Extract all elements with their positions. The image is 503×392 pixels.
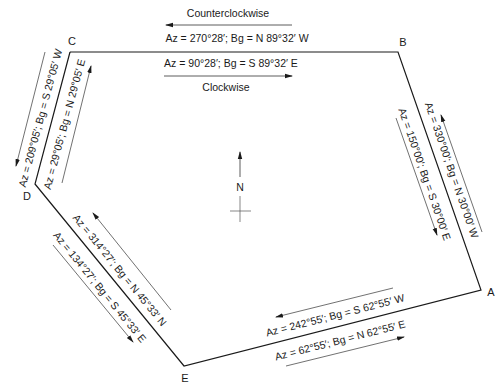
cb-cw-label: Az = 90°28′; Bg = S 89°32′ E bbox=[164, 57, 298, 69]
vertex-label-b: B bbox=[399, 37, 406, 48]
vertex-label-e: E bbox=[181, 373, 188, 384]
north-label: N bbox=[236, 182, 244, 193]
traverse-polygon bbox=[35, 52, 481, 366]
clockwise-label: Clockwise bbox=[202, 81, 249, 93]
counterclockwise-label: Counterclockwise bbox=[187, 7, 269, 19]
cb-ccw-label: Az = 270°28′; Bg = N 89°32′ W bbox=[165, 32, 308, 44]
vertex-label-d: D bbox=[23, 191, 31, 202]
